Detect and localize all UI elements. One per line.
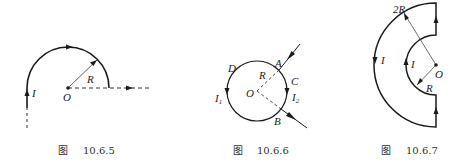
arc-arrow-icon (66, 45, 73, 50)
label-center: O (63, 91, 71, 103)
label-radius: R (86, 73, 94, 85)
label-inner-radius: R (425, 82, 433, 94)
label-i2: I2 (291, 91, 300, 105)
center-point (66, 86, 70, 90)
label-outer-current: I (380, 54, 386, 66)
figure-10-6-5: I R O 图 10.6.5 (25, 45, 151, 157)
i2-arrow-icon (285, 88, 290, 95)
caption-number: 10.6.7 (406, 145, 438, 156)
label-center: O (246, 87, 254, 99)
outer-arc-arrow-icon (373, 57, 378, 64)
figure-10-6-6: A B C D R O I1 I2 图 10.6.6 (214, 44, 307, 156)
figures-canvas: I R O 图 10.6.5 A B C D R O I1 I2 图 10.6.… (0, 0, 461, 165)
current-arrow-icon (25, 89, 30, 96)
label-inner-current: I (410, 58, 416, 70)
inner-radius-arrow-icon (417, 78, 423, 85)
center-point (434, 63, 438, 67)
label-current: I (31, 87, 37, 99)
outgoing-arrow-icon (126, 86, 133, 91)
caption-prefix: 图 (381, 145, 391, 156)
outer-radius-line (404, 13, 436, 65)
label-outer-radius: 2R (393, 3, 406, 15)
bottom-segment-arrow-icon (434, 107, 439, 114)
top-segment-arrow-icon (434, 16, 439, 23)
caption-number: 10.6.6 (257, 145, 289, 156)
caption-number: 10.6.5 (83, 145, 115, 156)
figure-10-6-7: 2R R O I I 图 10.6.7 (373, 3, 444, 156)
label-i1: I1 (214, 92, 222, 106)
caption-prefix: 图 (58, 145, 68, 156)
label-d: D (227, 62, 236, 74)
label-a: A (274, 57, 282, 69)
i1-arrow-icon (225, 88, 230, 95)
radius-arrow-icon (90, 60, 97, 66)
label-b: B (274, 115, 281, 127)
label-c: C (291, 75, 299, 87)
semicircle-arc (27, 47, 109, 88)
caption-prefix: 图 (233, 145, 243, 156)
radius-ob-dashed (257, 91, 281, 109)
label-center: O (435, 68, 443, 80)
inner-arc-arrow-icon (404, 58, 409, 65)
label-radius: R (258, 69, 266, 81)
